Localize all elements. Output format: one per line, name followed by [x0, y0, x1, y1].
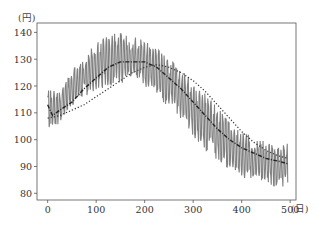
y-tick-label: 80: [20, 188, 32, 199]
y-tick-label: 90: [20, 161, 32, 172]
y-tick-label: 100: [14, 134, 32, 145]
y-tick-label: 110: [14, 107, 32, 118]
y-axis-unit-label: (円): [18, 12, 35, 23]
x-tick-label: 0: [45, 204, 51, 215]
y-tick-label: 120: [14, 81, 32, 92]
x-tick-label: 200: [136, 204, 154, 215]
series-layer: [48, 34, 288, 187]
y-tick-label: 130: [14, 54, 32, 65]
x-axis-unit-label: (日): [291, 203, 308, 214]
plot-frame: [37, 23, 296, 200]
y-tick-label: 140: [14, 27, 32, 38]
price-series-line: [48, 34, 288, 187]
line-chart: 01002003004005008090100110120130140 (円) …: [0, 0, 324, 232]
x-tick-label: 400: [233, 204, 251, 215]
x-tick-label: 100: [87, 204, 105, 215]
x-tick-label: 300: [184, 204, 202, 215]
